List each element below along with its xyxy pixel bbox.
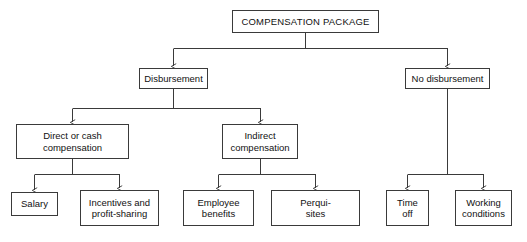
node-label: No disbursement <box>408 73 488 84</box>
node-label: Salary <box>17 198 52 209</box>
node-label: Incentives and profit-sharing <box>85 197 154 219</box>
node-time-off: Time off <box>386 190 429 226</box>
node-label: Direct or cash compensation <box>39 130 106 152</box>
node-no-disbursement: No disbursement <box>405 68 490 89</box>
node-label: COMPENSATION PACKAGE <box>237 16 373 27</box>
node-employee-benefits: Employee benefits <box>183 190 254 226</box>
node-compensation-package: COMPENSATION PACKAGE <box>232 10 379 33</box>
node-label: Employee benefits <box>193 197 243 219</box>
node-label: Time off <box>393 197 422 219</box>
node-salary: Salary <box>11 192 58 216</box>
node-label: Working conditions <box>458 197 509 219</box>
node-label: Indirect compensation <box>226 130 293 152</box>
node-perquisites: Perqui- sites <box>271 190 360 226</box>
node-label: Perqui- sites <box>296 197 335 219</box>
compensation-package-diagram: COMPENSATION PACKAGE Disbursement No dis… <box>0 0 527 242</box>
node-disbursement: Disbursement <box>139 68 208 89</box>
node-label: Disbursement <box>140 73 207 84</box>
node-direct-or-cash-compensation: Direct or cash compensation <box>16 124 129 159</box>
node-indirect-compensation: Indirect compensation <box>222 124 298 159</box>
node-working-conditions: Working conditions <box>455 190 512 226</box>
node-incentives-and-profit-sharing: Incentives and profit-sharing <box>80 190 159 226</box>
